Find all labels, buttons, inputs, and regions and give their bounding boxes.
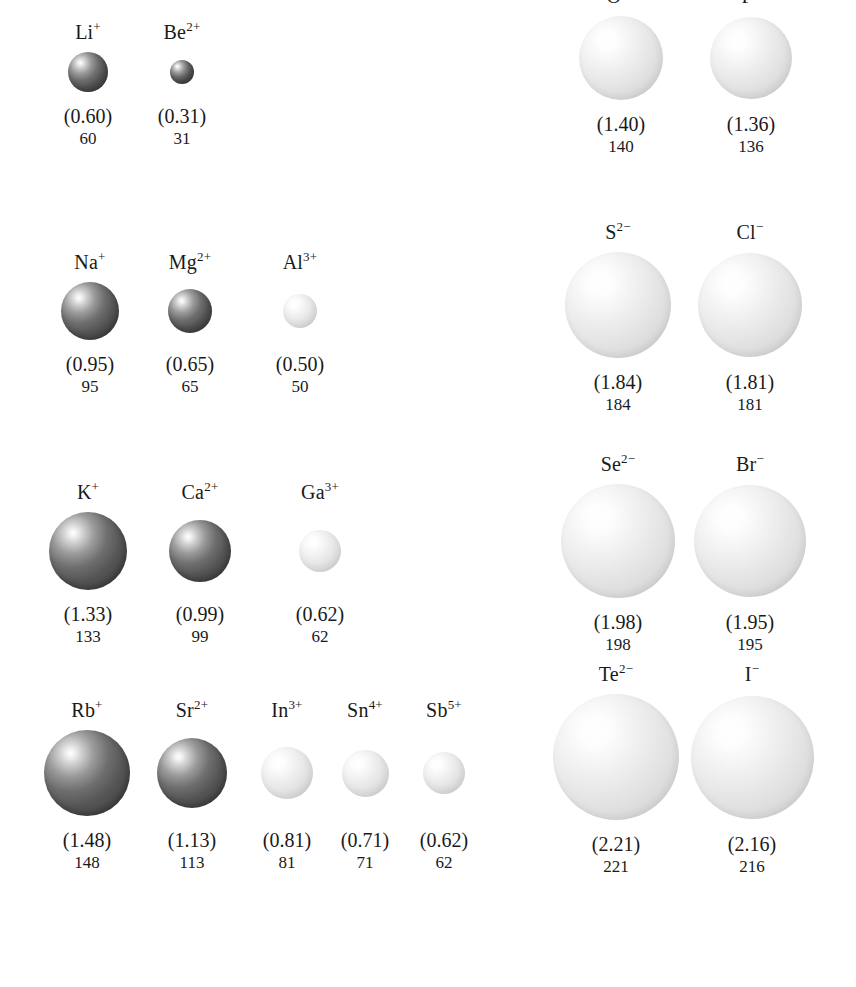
- ion-sphere-cl: [698, 253, 802, 357]
- ion-charge-superscript: −: [752, 661, 760, 676]
- ion-radius-picometer: 136: [738, 138, 764, 157]
- ion-sphere-f: [710, 17, 792, 99]
- ion-symbol-sr: Sr2+: [176, 700, 208, 720]
- ion-radius-angstrom: (1.36): [727, 113, 775, 135]
- ion-sphere-rb: [44, 730, 130, 816]
- ion-charge-superscript: 2+: [194, 697, 208, 712]
- ion-cell-sr: Sr2+(1.13)113: [136, 700, 248, 873]
- sphere-slot: [157, 727, 227, 819]
- ion-element-symbol: F: [742, 0, 753, 7]
- ion-radius-angstrom: (1.48): [63, 829, 111, 851]
- ion-charge-superscript: −: [756, 451, 764, 466]
- cation-group: Li+(0.60)60Be2+(0.31)31: [40, 22, 228, 149]
- ion-symbol-sn: Sn4+: [347, 700, 383, 720]
- ion-symbol-al: Al3+: [283, 252, 318, 272]
- ion-charge-superscript: 2−: [621, 451, 635, 466]
- ion-symbol-ca: Ca2+: [182, 482, 219, 502]
- ion-symbol-be: Be2+: [164, 22, 201, 42]
- ion-radius-picometer: 31: [174, 130, 191, 149]
- ion-sphere-sb: [423, 752, 465, 794]
- sphere-slot: [691, 691, 814, 823]
- ion-charge-superscript: +: [98, 249, 106, 264]
- ion-cell-in: In3+(0.81)81: [248, 700, 326, 873]
- ion-symbol-rb: Rb+: [71, 700, 102, 720]
- sphere-slot: [283, 279, 317, 343]
- ion-radius-angstrom: (0.71): [341, 829, 389, 851]
- ion-symbol-te: Te2−: [599, 664, 633, 684]
- ion-element-symbol: Se: [601, 453, 621, 475]
- ion-sphere-be: [170, 60, 194, 84]
- ion-element-symbol: Sb: [426, 699, 448, 721]
- anion-group: O2−(1.40)140F−(1.36)136: [556, 0, 816, 157]
- ion-cell-k: K+(1.33)133: [36, 482, 140, 647]
- ion-cell-ga: Ga3+(0.62)62: [260, 482, 380, 647]
- ion-cell-cl: Cl−(1.81)181: [684, 222, 816, 415]
- ion-element-symbol: Cl: [737, 221, 756, 243]
- ion-cell-i: I−(2.16)216: [684, 664, 820, 877]
- ion-symbol-o: O2−: [607, 0, 636, 6]
- ion-cell-se: Se2−(1.98)198: [552, 454, 684, 655]
- ion-cell-mg: Mg2+(0.65)65: [140, 252, 240, 397]
- ion-element-symbol: Rb: [71, 699, 95, 721]
- sphere-slot: [169, 509, 231, 593]
- ion-sphere-ga: [299, 530, 341, 572]
- anion-group: Se2−(1.98)198Br−(1.95)195: [552, 454, 816, 655]
- ion-symbol-br: Br−: [736, 454, 764, 474]
- ion-charge-superscript: 3+: [325, 479, 339, 494]
- ion-charge-superscript: 3+: [303, 249, 317, 264]
- ion-charge-superscript: 2−: [617, 219, 631, 234]
- ion-symbol-i: I−: [745, 664, 759, 684]
- ion-radius-angstrom: (1.84): [594, 371, 642, 393]
- ion-symbol-f: F−: [742, 0, 761, 6]
- ion-cell-rb: Rb+(1.48)148: [38, 700, 136, 873]
- ion-charge-superscript: −: [756, 219, 764, 234]
- ion-sphere-ca: [169, 520, 231, 582]
- ion-sphere-o: [579, 16, 663, 100]
- sphere-slot: [170, 49, 194, 95]
- ion-radius-picometer: 81: [279, 854, 296, 873]
- ion-radius-angstrom: (0.65): [166, 353, 214, 375]
- ion-sphere-i: [691, 696, 814, 819]
- ion-radius-angstrom: (2.21): [592, 833, 640, 855]
- ion-radius-picometer: 50: [292, 378, 309, 397]
- ion-radius-angstrom: (2.16): [728, 833, 776, 855]
- ion-symbol-k: K+: [77, 482, 99, 502]
- ion-charge-superscript: +: [93, 19, 101, 34]
- ion-element-symbol: Li: [75, 21, 93, 43]
- ion-radius-angstrom: (0.62): [420, 829, 468, 851]
- ion-cell-be: Be2+(0.31)31: [136, 22, 228, 149]
- ion-cell-s: S2−(1.84)184: [552, 222, 684, 415]
- ion-radius-angstrom: (1.81): [726, 371, 774, 393]
- ion-sphere-na: [61, 282, 119, 340]
- ion-symbol-mg: Mg2+: [169, 252, 211, 272]
- ion-cell-na: Na+(0.95)95: [40, 252, 140, 397]
- ion-radius-angstrom: (0.99): [176, 603, 224, 625]
- ion-element-symbol: In: [271, 699, 288, 721]
- ion-radius-picometer: 133: [75, 628, 101, 647]
- ion-radius-picometer: 65: [182, 378, 199, 397]
- sphere-slot: [553, 691, 679, 823]
- anion-group: S2−(1.84)184Cl−(1.81)181: [552, 222, 816, 415]
- ion-sphere-se: [561, 484, 675, 598]
- ion-sphere-li: [68, 52, 108, 92]
- ion-element-symbol: Br: [736, 453, 756, 475]
- sphere-slot: [342, 727, 389, 819]
- ion-cell-ca: Ca2+(0.99)99: [140, 482, 260, 647]
- ion-element-symbol: Al: [283, 251, 303, 273]
- ion-sphere-te: [553, 694, 679, 820]
- ion-charge-superscript: +: [95, 697, 103, 712]
- sphere-slot: [299, 509, 341, 593]
- ion-element-symbol: Ca: [182, 481, 205, 503]
- ion-radius-picometer: 99: [192, 628, 209, 647]
- ion-element-symbol: K: [77, 481, 92, 503]
- ion-element-symbol: Sn: [347, 699, 369, 721]
- cation-group: Rb+(1.48)148Sr2+(1.13)113In3+(0.81)81Sn4…: [38, 700, 484, 873]
- ion-symbol-ga: Ga3+: [301, 482, 339, 502]
- ion-radius-angstrom: (0.50): [276, 353, 324, 375]
- ion-radius-picometer: 216: [739, 858, 765, 877]
- ion-element-symbol: Na: [74, 251, 98, 273]
- ion-radius-picometer: 148: [74, 854, 100, 873]
- cation-group: Na+(0.95)95Mg2+(0.65)65Al3+(0.50)50: [40, 252, 360, 397]
- ion-element-symbol: I: [745, 663, 752, 685]
- ion-charge-superscript: 2+: [204, 479, 218, 494]
